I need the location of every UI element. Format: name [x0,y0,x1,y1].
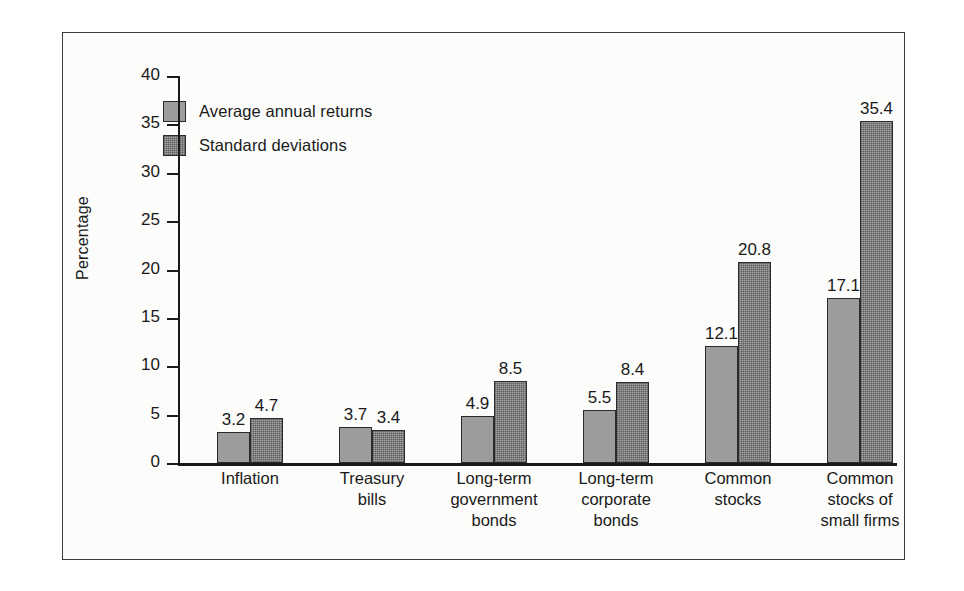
x-axis-category-label: Inflation [184,468,316,489]
bar-value-label: 8.4 [621,360,645,380]
y-axis-tick-label: 30 [120,162,160,182]
x-axis-category-label: Commonstocks [672,468,804,510]
y-axis-tick-label: 20 [120,259,160,279]
bar-group: 17.135.4 [827,121,893,463]
category-label-line: bills [306,489,438,510]
bar-item[interactable]: 12.1 [705,346,738,463]
y-axis-tick: 30 [167,173,180,175]
x-axis-line [178,463,897,466]
bar-item[interactable]: 20.8 [738,262,771,463]
bar-standard-deviations[interactable] [372,430,405,463]
x-axis-category-label: Treasurybills [306,468,438,510]
category-label-line: Long-term [428,468,560,489]
y-axis-tick: 10 [167,366,180,368]
bar-value-label: 20.8 [738,240,771,260]
bar-average-annual-returns[interactable] [461,416,494,463]
bar-group: 3.24.7 [217,418,283,463]
bar-standard-deviations[interactable] [494,381,527,463]
bar-item[interactable]: 3.2 [217,432,250,463]
x-axis-category-label: Long-termgovernmentbonds [428,468,560,531]
y-axis-tick: 25 [167,221,180,223]
y-axis-tick-label: 10 [120,355,160,375]
bar-item[interactable]: 5.5 [583,410,616,463]
category-label-line: government [428,489,560,510]
plot-area: 4035302520151050 3.24.73.73.44.98.55.58.… [178,76,898,463]
bar-value-label: 4.7 [255,396,279,416]
x-axis-category-label: Long-termcorporatebonds [550,468,682,531]
bar-value-label: 3.4 [377,408,401,428]
category-label-line: small firms [794,510,926,531]
category-label-line: Inflation [184,468,316,489]
bar-item[interactable]: 8.5 [494,381,527,463]
category-label-line: Common [794,468,926,489]
x-axis-category-label: Commonstocks ofsmall firms [794,468,926,531]
y-axis-tick: 35 [167,124,180,126]
y-axis-title: Percentage [74,158,92,318]
y-axis-tick-label: 15 [120,307,160,327]
category-label-line: stocks of [794,489,926,510]
bar-item[interactable]: 3.7 [339,427,372,463]
bar-item[interactable]: 4.9 [461,416,494,463]
bar-value-label: 8.5 [499,359,523,379]
bar-item[interactable]: 3.4 [372,430,405,463]
y-axis-tick-label: 35 [120,113,160,133]
y-axis-tick: 0 [167,463,180,465]
category-label-line: Long-term [550,468,682,489]
bar-item[interactable]: 8.4 [616,382,649,463]
y-axis-tick: 15 [167,318,180,320]
bar-value-label: 12.1 [705,324,738,344]
category-label-line: bonds [550,510,682,531]
bar-value-label: 17.1 [827,276,860,296]
bar-value-label: 4.9 [466,394,490,414]
bar-item[interactable]: 17.1 [827,298,860,463]
bar-standard-deviations[interactable] [738,262,771,463]
category-label-line: Common [672,468,804,489]
bar-group: 12.120.8 [705,262,771,463]
y-axis-tick-label: 40 [120,65,160,85]
y-axis-tick: 40 [167,76,180,78]
bar-group: 4.98.5 [461,381,527,463]
bar-item[interactable]: 35.4 [860,121,893,463]
category-label-line: corporate [550,489,682,510]
bar-standard-deviations[interactable] [616,382,649,463]
y-axis-tick: 5 [167,415,180,417]
bar-average-annual-returns[interactable] [705,346,738,463]
category-label-line: Treasury [306,468,438,489]
bar-value-label: 5.5 [588,388,612,408]
bar-average-annual-returns[interactable] [827,298,860,463]
y-axis-tick: 20 [167,270,180,272]
bar-group: 5.58.4 [583,382,649,463]
bar-average-annual-returns[interactable] [583,410,616,463]
bar-value-label: 3.2 [222,410,246,430]
bar-item[interactable]: 4.7 [250,418,283,463]
category-label-line: bonds [428,510,560,531]
bar-average-annual-returns[interactable] [339,427,372,463]
y-axis-tick-label: 5 [120,404,160,424]
bar-value-label: 3.7 [344,405,368,425]
bar-value-label: 35.4 [860,99,893,119]
y-axis-tick-label: 25 [120,210,160,230]
category-label-line: stocks [672,489,804,510]
bar-standard-deviations[interactable] [860,121,893,463]
y-axis-tick-label: 0 [120,452,160,472]
bar-average-annual-returns[interactable] [217,432,250,463]
chart-frame: Percentage Average annual returns Standa… [62,32,905,560]
bar-group: 3.73.4 [339,427,405,463]
bar-standard-deviations[interactable] [250,418,283,463]
